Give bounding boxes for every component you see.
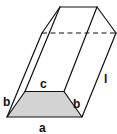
prism-diagram: a b b c l — [0, 0, 117, 134]
label-c: c — [40, 77, 47, 91]
label-l: l — [104, 72, 107, 86]
label-a: a — [39, 121, 46, 134]
edge-bottom-right-lateral — [82, 33, 116, 117]
edge-c-right-lateral — [64, 7, 97, 92]
label-b-left: b — [3, 95, 10, 109]
label-b-right: b — [73, 97, 80, 111]
trapezoid-base — [7, 92, 82, 118]
edge-top-right — [97, 7, 116, 33]
